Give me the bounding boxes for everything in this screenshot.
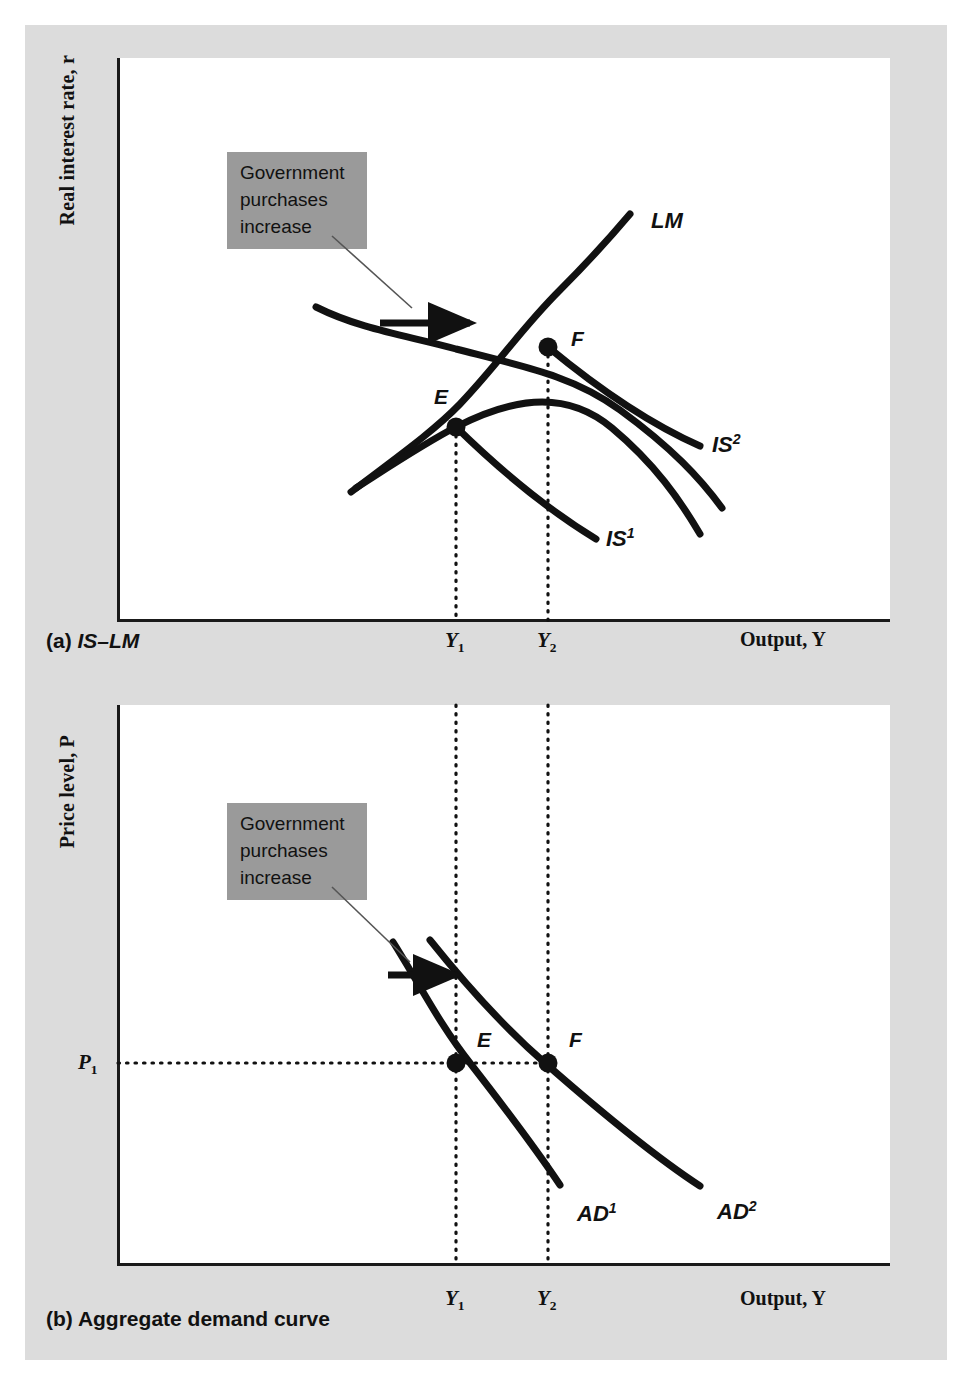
lm-curve-label: LM	[651, 208, 683, 234]
panel-b-p1-tick-subscript: 1	[91, 1062, 98, 1077]
panel-b-caption-prefix: (b)	[46, 1307, 78, 1330]
is2-curve-label-superscript: 2	[733, 431, 741, 447]
is2-curve-label-text: IS	[712, 432, 733, 457]
ad1-curve-label: AD1	[577, 1200, 617, 1227]
panel-a-point-e-label: E	[434, 385, 448, 409]
panel-a-y-axis-label: Real interest rate, r	[56, 55, 79, 225]
panel-a-y2-tick-subscript: 2	[550, 640, 557, 655]
panel-a-x-axis-label: Output, Y	[740, 628, 826, 651]
panel-b-caption: (b) Aggregate demand curve	[46, 1307, 330, 1331]
panel-b-y2-tick-base: Y	[537, 1286, 550, 1310]
figure-root: Real interest rate, r Output, Y (a) IS–L…	[0, 0, 972, 1385]
panel-b-y2-tick-label: Y2	[537, 1286, 557, 1314]
panel-a-y1-tick-subscript: 1	[458, 640, 465, 655]
panel-a-callout-box: Government purchases increase	[227, 152, 367, 249]
panel-b-plot-area	[117, 705, 890, 1266]
is1-curve-label: IS1	[606, 525, 635, 552]
panel-a-caption-prefix: (a)	[46, 629, 78, 652]
panel-a-point-f-label: F	[571, 327, 584, 351]
panel-b-p1-tick-label: P1	[78, 1050, 98, 1078]
is2-curve-label: IS2	[712, 431, 741, 458]
panel-b-point-f-label: F	[569, 1028, 582, 1052]
panel-a-y1-tick-base: Y	[445, 628, 458, 652]
panel-a-plot-area	[117, 58, 890, 622]
panel-b-y2-tick-subscript: 2	[550, 1298, 557, 1313]
panel-b-y1-tick-subscript: 1	[458, 1298, 465, 1313]
panel-b-y1-tick-base: Y	[445, 1286, 458, 1310]
panel-b-point-e-label: E	[477, 1028, 491, 1052]
is1-curve-label-superscript: 1	[627, 525, 635, 541]
is1-curve-label-text: IS	[606, 526, 627, 551]
ad2-curve-label-superscript: 2	[749, 1198, 757, 1214]
panel-a-caption-title: IS–LM	[78, 629, 140, 652]
panel-a-y2-tick-base: Y	[537, 628, 550, 652]
ad2-curve-label: AD2	[717, 1198, 757, 1225]
ad2-curve-label-text: AD	[717, 1199, 749, 1224]
panel-b-p1-tick-base: P	[78, 1050, 91, 1074]
panel-b-x-axis-label: Output, Y	[740, 1287, 826, 1310]
panel-b-caption-title: Aggregate demand curve	[78, 1307, 330, 1330]
panel-b-y-axis-label: Price level, P	[56, 735, 79, 848]
panel-a-y2-tick-label: Y2	[537, 628, 557, 656]
panel-b-callout-box: Government purchases increase	[227, 803, 367, 900]
panel-a-y1-tick-label: Y1	[445, 628, 465, 656]
ad1-curve-label-superscript: 1	[609, 1200, 617, 1216]
ad1-curve-label-text: AD	[577, 1201, 609, 1226]
panel-b-y1-tick-label: Y1	[445, 1286, 465, 1314]
panel-a-caption: (a) IS–LM	[46, 629, 139, 653]
